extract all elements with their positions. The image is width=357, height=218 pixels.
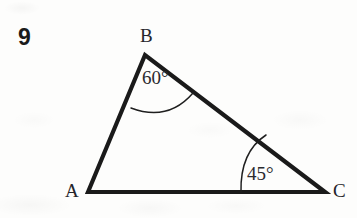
figure-canvas: 9 B A C 60° 45° <box>0 0 357 218</box>
vertex-label-b: B <box>140 26 153 45</box>
vertex-label-c: C <box>333 181 346 200</box>
triangle-figure <box>0 0 357 218</box>
triangle-outline <box>88 55 325 192</box>
angle-label-b: 60° <box>142 68 169 87</box>
angle-label-c: 45° <box>247 164 274 183</box>
angle-arc-b <box>131 93 193 113</box>
vertex-label-a: A <box>65 181 79 200</box>
problem-number: 9 <box>18 26 31 49</box>
